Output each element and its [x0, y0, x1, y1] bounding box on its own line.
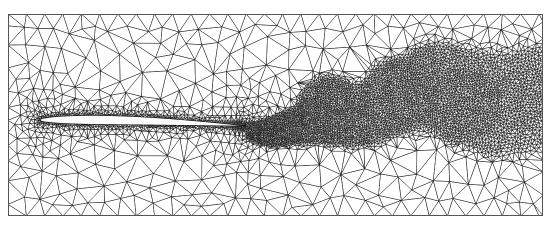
- mesh-figure: [0, 0, 552, 234]
- domain-border: [9, 15, 543, 216]
- mesh-overlay: [0, 0, 552, 234]
